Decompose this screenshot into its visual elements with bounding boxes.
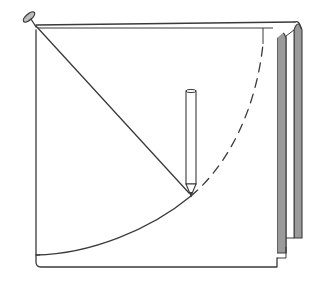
middle-page-edge: [277, 32, 286, 253]
illustration: Drawing a quarter-circle arc with a pin,…: [0, 0, 320, 297]
back-page: [294, 24, 302, 238]
middle-page: [277, 30, 294, 258]
pencil-icon: [186, 89, 196, 196]
back-page-edge: [294, 24, 302, 238]
pin-icon: [22, 10, 37, 27]
front-page: [36, 22, 301, 267]
middle-page-face: [286, 30, 294, 253]
front-page-face: [36, 23, 295, 267]
arc-drawing-diagram: [0, 0, 320, 297]
